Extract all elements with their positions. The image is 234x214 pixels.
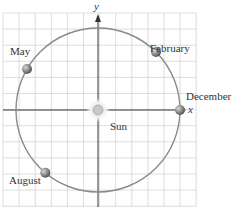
planet-december [175,105,185,115]
sun-label: Sun [110,120,128,132]
x-axis-label: x [187,103,193,115]
y-axis-label: y [93,0,99,12]
planet-august [40,168,50,178]
label-august: August [9,174,41,186]
label-december: December [186,90,232,102]
orbit-diagram: x y Sun February May August December [0,0,234,214]
label-february: February [150,42,190,54]
sun-icon [93,105,103,115]
planet-may [22,64,32,74]
label-may: May [10,45,31,57]
